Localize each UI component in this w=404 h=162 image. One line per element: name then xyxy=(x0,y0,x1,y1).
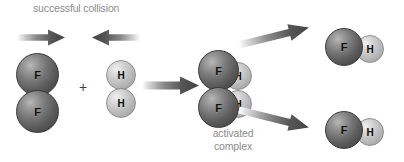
reaction-diagram: successful collision xyxy=(0,0,404,162)
atom-label: H xyxy=(117,70,124,81)
atom-fluorine: F xyxy=(16,90,59,133)
atom-label: F xyxy=(215,102,222,114)
activated-complex-label: activated complex xyxy=(201,127,265,152)
atom-fluorine: F xyxy=(198,50,239,91)
atom-hydrogen: H xyxy=(106,88,136,118)
page-title: successful collision xyxy=(33,2,119,15)
product-arrow-upper xyxy=(237,19,311,54)
atom-label: H xyxy=(366,127,373,138)
atom-fluorine: F xyxy=(325,111,363,149)
reaction-arrow-main xyxy=(142,76,199,95)
collision-arrow-left xyxy=(17,29,65,46)
atom-label: F xyxy=(215,65,222,77)
atom-label: F xyxy=(34,69,41,81)
atom-label: H xyxy=(117,98,124,109)
atom-label: H xyxy=(366,44,373,55)
atom-label: F xyxy=(341,41,348,53)
atom-hydrogen: H xyxy=(106,60,136,90)
atom-fluorine: F xyxy=(198,87,239,128)
atom-label: F xyxy=(34,106,41,118)
collision-arrow-right xyxy=(92,29,140,46)
atom-fluorine: F xyxy=(325,28,363,66)
atom-label: F xyxy=(341,124,348,136)
plus-sign: + xyxy=(79,80,87,94)
